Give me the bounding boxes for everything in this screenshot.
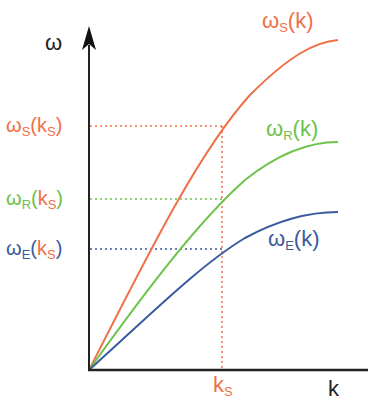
y-tick-omega-r-ks: ωR(kS) [6,188,63,211]
curve-label-omega-e: ωE(k) [268,228,320,252]
x-tick-ks: kS [213,374,233,398]
y-axis-label: ω [45,32,62,54]
y-tick-omega-s-ks: ωS(kS) [6,115,62,138]
x-axis-label: k [328,378,339,400]
curve-label-omega-s: ωS(k) [262,10,314,34]
curve-label-omega-r: ωR(k) [266,118,318,142]
curve-omega-s [89,40,338,370]
y-tick-omega-e-ks: ωE(kS) [6,238,62,261]
